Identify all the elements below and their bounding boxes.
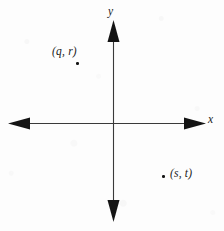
point-label-qr: (q, r)	[52, 45, 77, 57]
y-axis-bottom-arrowhead	[108, 200, 120, 222]
y-axis-label: y	[108, 5, 113, 17]
x-axis-left-arrowhead	[8, 118, 30, 130]
x-axis-label: x	[208, 113, 213, 125]
point-marker-qr	[76, 62, 79, 65]
point-label-st: (s, t)	[170, 167, 192, 179]
axes-drawing	[0, 0, 224, 231]
coordinate-plane-figure: y x (q, r) (s, t)	[0, 0, 224, 231]
point-marker-st	[162, 175, 165, 178]
y-axis-top-arrowhead	[108, 20, 120, 42]
x-axis-right-arrowhead	[184, 118, 206, 130]
